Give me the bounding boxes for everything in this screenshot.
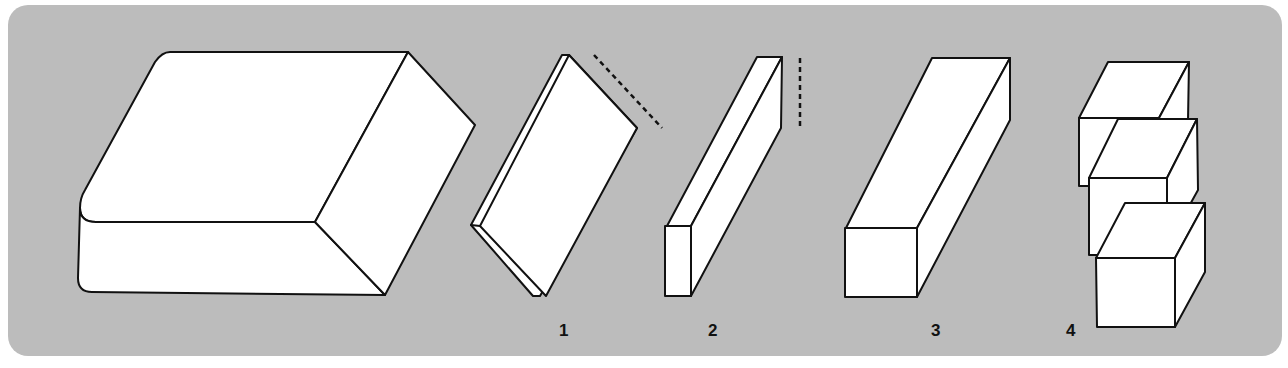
label-shape-1: 1 (559, 322, 568, 339)
shape-1-plate (471, 55, 637, 296)
shape-4-cubes (1079, 62, 1205, 327)
label-shape-4: 4 (1066, 322, 1075, 339)
shape-2-beam (665, 57, 782, 296)
label-shape-2: 2 (708, 322, 717, 339)
diagram-drawing (0, 0, 1288, 368)
shape-3-bar (845, 58, 1010, 297)
label-shape-3: 3 (931, 322, 940, 339)
source-block (78, 52, 475, 295)
